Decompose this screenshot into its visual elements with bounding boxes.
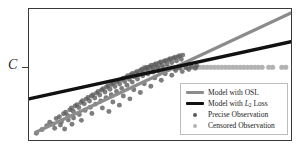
- l2-line-swatch: [186, 102, 204, 105]
- y-axis-tick-label: C: [8, 58, 17, 72]
- legend-label-model-l2: Model with L2 Loss: [206, 100, 268, 108]
- precise-observation-point: [52, 126, 57, 131]
- precise-observation-point: [76, 105, 81, 110]
- legend-item-censored-observation[interactable]: Censored Observation: [184, 120, 283, 131]
- precise-observation-point: [148, 84, 153, 89]
- legend-key-censored-dot: [184, 124, 206, 128]
- legend-label-model-l2-suffix: Loss: [252, 99, 268, 108]
- precise-point-swatch: [193, 113, 197, 117]
- precise-observation-point: [174, 58, 179, 63]
- precise-observation-point: [180, 69, 185, 74]
- precise-observation-point: [179, 57, 184, 62]
- legend-label-censored-observation: Censored Observation: [206, 122, 275, 130]
- precise-observation-point: [102, 90, 107, 95]
- precise-observation-point: [69, 122, 74, 127]
- precise-observation-point: [97, 92, 102, 97]
- precise-observation-point: [79, 118, 84, 123]
- legend-label-model-l2-subscript: 2: [249, 102, 252, 108]
- precise-observation-point: [92, 96, 97, 101]
- legend-label-model-l2-prefix: Model with: [208, 99, 245, 108]
- legend-key-precise-dot: [184, 113, 206, 117]
- precise-observation-point: [117, 103, 122, 108]
- legend-item-precise-observation[interactable]: Precise Observation: [184, 109, 283, 120]
- precise-observation-point: [169, 60, 174, 65]
- precise-observation-point: [58, 123, 63, 128]
- legend-key-l2-line: [184, 102, 206, 105]
- censored-point-swatch: [193, 124, 197, 128]
- censored-observation-point: [260, 65, 265, 70]
- censored-regression-figure: C Model with OSL Model with L2 Loss: [0, 0, 306, 152]
- precise-observation-point: [160, 63, 165, 68]
- censored-observation-point: [270, 65, 275, 70]
- ols-line-swatch: [186, 91, 204, 94]
- precise-observation-point: [165, 62, 170, 67]
- precise-observation-point: [112, 84, 117, 89]
- legend-label-precise-observation: Precise Observation: [206, 111, 268, 119]
- legend-label-model-ols: Model with OSL: [206, 89, 259, 97]
- precise-observation-point: [169, 73, 174, 78]
- precise-observation-point: [87, 99, 92, 104]
- precise-observation-point: [107, 87, 112, 92]
- precise-observation-point: [100, 106, 105, 111]
- precise-observation-point: [62, 127, 67, 132]
- precise-observation-point: [127, 96, 132, 101]
- precise-observation-point: [89, 111, 94, 116]
- legend-key-ols-line: [184, 91, 206, 94]
- legend-item-model-l2[interactable]: Model with L2 Loss: [184, 98, 283, 109]
- precise-observation-point: [159, 78, 164, 83]
- precise-observation-point: [186, 67, 191, 72]
- precise-observation-point: [110, 100, 115, 105]
- precise-observation-point: [57, 114, 62, 119]
- legend: Model with OSL Model with L2 Loss Precis…: [180, 83, 288, 135]
- precise-observation-point: [180, 53, 185, 58]
- legend-item-model-ols[interactable]: Model with OSL: [184, 87, 283, 98]
- precise-observation-point: [121, 94, 126, 99]
- precise-observation-point: [117, 81, 122, 86]
- precise-observation-point: [193, 66, 198, 71]
- precise-observation-point: [106, 109, 111, 114]
- censored-observation-point: [283, 65, 288, 70]
- precise-observation-point: [82, 101, 87, 106]
- precise-observation-point: [130, 80, 135, 85]
- precise-observation-point: [138, 90, 143, 95]
